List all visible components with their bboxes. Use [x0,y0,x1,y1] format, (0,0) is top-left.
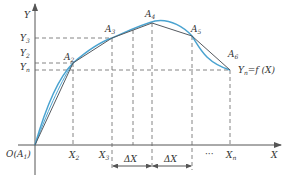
point-a4-label: A4 [144,9,156,20]
origin-label: O(A1) [6,149,31,160]
xn-label: Xn [225,150,236,161]
y-axis-label: Y [24,10,31,20]
y2-label: Y2 [20,48,30,59]
delta-x-label-1: ΔX [123,154,137,164]
approximation-diagram: Y X O(A1) Y3 Y2 Yn X2 X3 ··· Xn ΔX ΔX A2… [0,0,287,175]
y3-label: Y3 [20,33,30,44]
polyline-approximation [35,23,230,145]
point-a6-label: A6 [227,49,239,60]
ellipsis-label: ··· [205,149,214,159]
yn-label: Yn [20,62,30,73]
x3-label: X3 [98,150,109,161]
x2-label: X2 [68,150,79,161]
point-a2-label: A2 [63,52,75,63]
point-a5-label: A5 [190,24,202,35]
function-label: Yn=f (X) [238,65,275,76]
delta-x-label-2: ΔX [163,154,177,164]
point-a3-label: A3 [104,24,116,35]
x-axis-label: X [270,150,278,160]
